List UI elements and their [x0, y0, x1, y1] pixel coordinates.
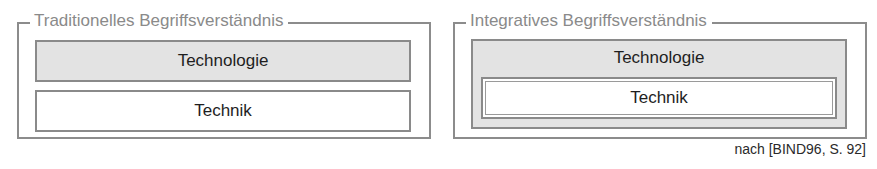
traditional-title: Traditionelles Begriffsverständnis	[30, 11, 288, 31]
source-citation: nach [BIND96, S. 92]	[734, 141, 866, 157]
integrative-technik-box: Technik	[481, 77, 837, 119]
technik-label: Technik	[630, 88, 688, 108]
technologie-label: Technologie	[473, 48, 845, 68]
technologie-label: Technologie	[178, 51, 269, 71]
integrative-title: Integratives Begriffsverständnis	[466, 11, 712, 31]
traditional-technologie-box: Technologie	[35, 40, 411, 82]
technik-label: Technik	[194, 101, 252, 121]
traditional-technik-box: Technik	[35, 90, 411, 132]
